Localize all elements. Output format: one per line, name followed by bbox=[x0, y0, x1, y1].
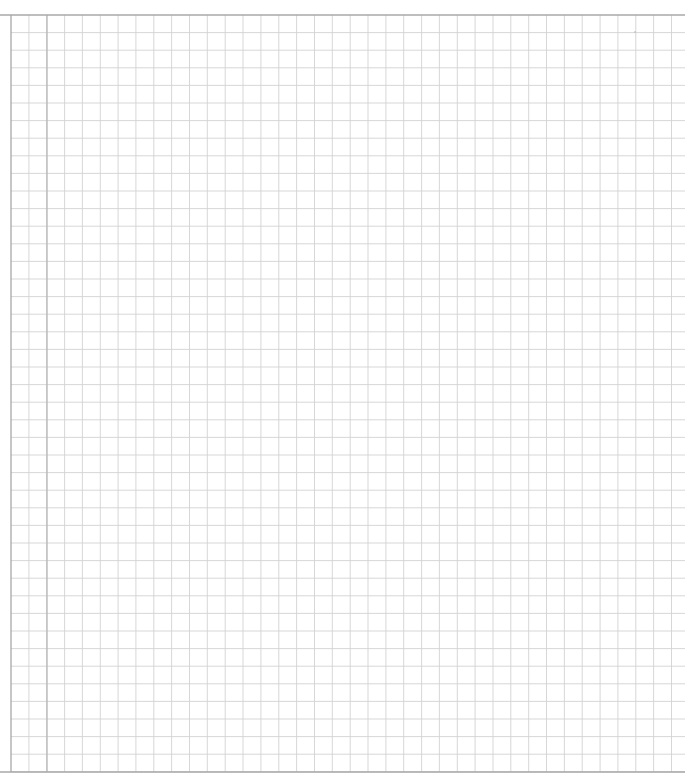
paper-speck bbox=[634, 31, 636, 33]
grid-lines bbox=[0, 0, 685, 783]
graph-paper-sheet bbox=[0, 0, 685, 783]
